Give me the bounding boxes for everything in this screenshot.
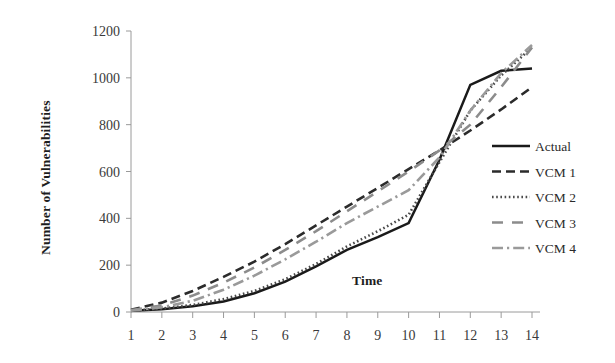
x-tick-label: 8 [343,328,350,343]
y-axis-tick-labels: 020040060080010001200 [92,24,120,320]
x-tick-label: 5 [251,328,258,343]
x-axis-tick-labels: 1234567891011121314 [128,328,540,343]
y-tick-label: 1200 [92,24,120,39]
series-line-vcm-1 [131,87,532,309]
x-tick-label: 4 [220,328,227,343]
legend-label-actual: Actual [535,139,571,154]
x-tick-label: 13 [494,328,508,343]
x-axis-title: Time [352,273,383,288]
chart-axes [126,31,540,318]
y-tick-label: 400 [99,211,120,226]
y-tick-label: 600 [99,165,120,180]
y-tick-label: 1000 [92,71,120,86]
chart-series-group [131,45,532,311]
x-tick-label: 3 [189,328,196,343]
y-tick-label: 200 [99,258,120,273]
chart-container: Number of Vulnerabilities 02004006008001… [0,0,615,363]
x-tick-label: 12 [463,328,477,343]
x-tick-label: 6 [282,328,289,343]
series-line-actual [131,68,532,310]
series-line-vcm-3 [131,47,532,310]
y-tick-label: 0 [113,305,120,320]
legend-label-vcm-3: VCM 3 [535,216,576,231]
x-tick-label: 11 [433,328,446,343]
x-tick-label: 14 [525,328,539,343]
x-tick-label: 2 [158,328,165,343]
y-axis-title: Number of Vulnerabilities [38,100,53,255]
legend-label-vcm-2: VCM 2 [535,190,576,205]
legend-label-vcm-4: VCM 4 [535,241,576,256]
y-tick-label: 800 [99,118,120,133]
x-tick-label: 1 [128,328,135,343]
line-chart: Number of Vulnerabilities 02004006008001… [0,0,615,363]
chart-legend: ActualVCM 1VCM 2VCM 3VCM 4 [492,139,576,256]
x-tick-label: 10 [402,328,416,343]
legend-label-vcm-1: VCM 1 [535,165,576,180]
x-tick-label: 7 [313,328,320,343]
series-line-vcm-2 [131,47,532,310]
x-tick-label: 9 [374,328,381,343]
